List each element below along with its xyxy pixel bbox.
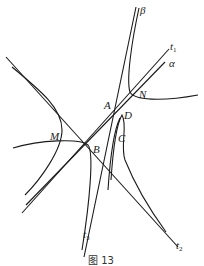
label-M: M (49, 130, 60, 142)
label-N: N (138, 88, 147, 100)
curve-d-branch (108, 118, 120, 190)
label-B: B (93, 143, 100, 155)
label-t3: t3 (83, 228, 90, 242)
curve-beta-branch (129, 8, 198, 99)
label-D: D (123, 109, 132, 121)
label-t1: t1 (170, 40, 177, 54)
label-t2: t2 (176, 239, 183, 253)
curve-m-branch (13, 141, 91, 250)
geometry-diagram: A B C D M N β α t1 t2 t3 图 13 (0, 0, 204, 266)
line-alpha (26, 62, 165, 205)
line-t1 (22, 49, 169, 213)
label-alpha: α (169, 57, 175, 69)
label-C: C (118, 132, 126, 144)
line-t3 (84, 7, 136, 257)
label-A: A (103, 99, 111, 111)
figure-caption: 图 13 (88, 255, 114, 266)
label-beta: β (139, 4, 146, 16)
